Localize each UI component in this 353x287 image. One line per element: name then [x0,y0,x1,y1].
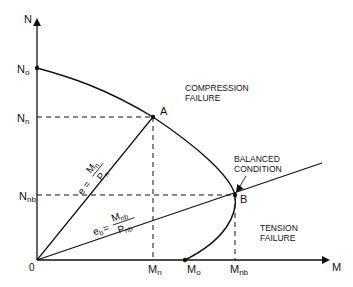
mnb-label: Mnb [230,263,249,277]
svg-text:Pn: Pn [94,167,110,183]
point-n0 [35,66,39,70]
nn-label: Nn [17,112,29,126]
m0-label: Mo [187,263,201,277]
y-axis-label: N [24,13,32,25]
eccentricity-line-e [37,117,153,260]
point-b [233,193,237,197]
x-axis-label: M [332,261,341,273]
mn-label: Mn [148,263,162,277]
point-a-label: A [160,105,168,117]
balanced-condition-label: BALANCED CONDITION [234,154,282,174]
point-a [151,115,155,119]
equation-eb: eb= Mnb Pnb [89,206,139,244]
eccentricity-line-eb [37,163,322,260]
n0-label: No [17,63,30,77]
nnb-label: Nnb [19,190,36,204]
point-m0 [183,258,187,262]
equation-e: e = Mn Pn [70,156,113,201]
svg-text:Mnb: Mnb [110,208,129,225]
interaction-diagram: N M 0 No Nn Nnb Mn Mo Mnb A B COMPRESSIO… [0,0,353,287]
point-b-label: B [240,193,247,205]
compression-failure-label: COMPRESSION FAILURE [185,83,251,103]
tension-failure-label: TENSION FAILURE [260,223,300,243]
origin-label: 0 [29,262,35,273]
